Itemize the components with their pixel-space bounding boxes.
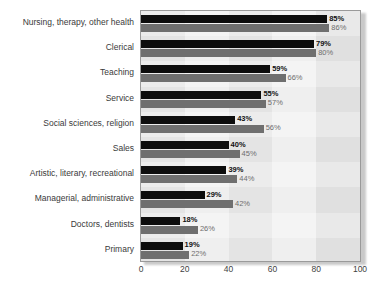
bar-1982[interactable] [141, 116, 235, 124]
bar-value-label: 55% [263, 90, 278, 98]
bar-value-label: 66% [288, 74, 303, 82]
bar-value-label: 79% [316, 40, 331, 48]
category-label: Artistic, literary, recreational [30, 161, 134, 186]
bar-1993[interactable] [141, 200, 233, 208]
axis-tick-label: 100 [353, 264, 367, 274]
chart-title [118, 0, 348, 2]
bar-value-label: 59% [272, 65, 287, 73]
axis-tick-label: 40 [224, 264, 233, 274]
category-axis-labels: Nursing, therapy, other healthClericalTe… [0, 10, 136, 262]
bar-1993[interactable] [141, 150, 240, 158]
bar-value-label: 29% [207, 191, 222, 199]
bar-row: 85%86% [141, 11, 360, 36]
category-label: Social sciences, religion [43, 111, 134, 136]
axis-tick-label: 20 [180, 264, 189, 274]
bar-1993[interactable] [141, 226, 198, 234]
category-label: Managerial, administrative [35, 186, 134, 211]
bar-row: 19%22% [141, 238, 360, 262]
bar-value-label: 85% [329, 15, 344, 23]
axis-tick-label: 80 [311, 264, 320, 274]
axis-tick-label: 0 [139, 264, 144, 274]
bar-1982[interactable] [141, 40, 314, 48]
bar-value-label: 26% [200, 225, 215, 233]
bar-row: 79%80% [141, 36, 360, 61]
bar-row: 18%26% [141, 213, 360, 238]
bar-row: 39%44% [141, 162, 360, 187]
category-label: Doctors, dentists [71, 212, 134, 237]
bar-value-label: 44% [239, 175, 254, 183]
bar-1993[interactable] [141, 49, 316, 57]
category-label: Teaching [100, 60, 134, 85]
bar-row: 59%66% [141, 61, 360, 86]
bar-1982[interactable] [141, 242, 183, 250]
value-axis: 020406080100 [140, 264, 361, 278]
bar-value-label: 86% [331, 24, 346, 32]
bar-1993[interactable] [141, 125, 264, 133]
bar-1993[interactable] [141, 24, 329, 32]
bar-value-label: 42% [235, 200, 250, 208]
bar-value-label: 43% [237, 115, 252, 123]
bar-1982[interactable] [141, 15, 327, 23]
bar-1982[interactable] [141, 65, 270, 73]
bar-1993[interactable] [141, 251, 189, 259]
bar-value-label: 57% [268, 99, 283, 107]
category-label: Service [106, 86, 134, 111]
bar-rows: 85%86%79%80%59%66%55%57%43%56%40%45%39%4… [141, 11, 360, 261]
bar-value-label: 39% [228, 166, 243, 174]
plot-area: 85%86%79%80%59%66%55%57%43%56%40%45%39%4… [140, 10, 361, 262]
bar-1993[interactable] [141, 100, 266, 108]
bar-row: 55%57% [141, 87, 360, 112]
bar-row: 40%45% [141, 137, 360, 162]
bar-value-label: 40% [231, 141, 246, 149]
bar-1993[interactable] [141, 175, 237, 183]
bar-value-label: 80% [318, 49, 333, 57]
bar-value-label: 22% [191, 250, 206, 258]
bar-1982[interactable] [141, 141, 229, 149]
bar-1993[interactable] [141, 74, 286, 82]
bar-row: 29%42% [141, 187, 360, 212]
chart-container: 85%86%79%80%59%66%55%57%43%56%40%45%39%4… [0, 0, 382, 292]
bar-value-label: 19% [185, 241, 200, 249]
bar-value-label: 18% [182, 216, 197, 224]
category-label: Primary [105, 237, 134, 262]
axis-tick-label: 60 [268, 264, 277, 274]
category-label: Clerical [106, 35, 134, 60]
bar-1982[interactable] [141, 166, 226, 174]
category-label: Sales [113, 136, 134, 161]
bar-1982[interactable] [141, 217, 180, 225]
bar-value-label: 56% [266, 124, 281, 132]
bar-1982[interactable] [141, 91, 261, 99]
bar-1982[interactable] [141, 191, 205, 199]
category-label: Nursing, therapy, other health [23, 10, 134, 35]
bar-value-label: 45% [242, 150, 257, 158]
bar-row: 43%56% [141, 112, 360, 137]
